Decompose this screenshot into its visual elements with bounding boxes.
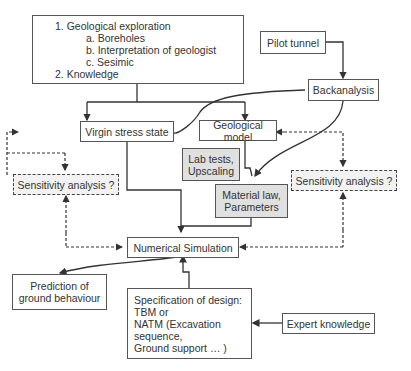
lab-tests-box: Lab tests, Upscaling [182, 148, 240, 181]
virgin-stress-state-label: Virgin stress state [85, 126, 168, 138]
backanalysis-box: Backanalysis [308, 79, 379, 101]
specification-line-1: Specification of design: [134, 294, 251, 306]
exploration-line-1: 1. Geological exploration [55, 20, 243, 32]
sensitivity-analysis-left-label: Sensitivity analysis ? [18, 179, 115, 191]
expert-knowledge-label: Expert knowledge [287, 318, 370, 330]
specification-line-5: Ground support … ) [134, 342, 251, 354]
numerical-simulation-label: Numerical Simulation [133, 242, 232, 254]
backanalysis-label: Backanalysis [313, 84, 374, 96]
exploration-line-c: c. Sesimic [55, 56, 243, 68]
geological-model-label: Geological model [200, 119, 276, 143]
exploration-line-2: 2. Knowledge [55, 68, 243, 80]
sensitivity-analysis-right-label: Sensitivity analysis ? [296, 175, 393, 187]
pilot-tunnel-box: Pilot tunnel [260, 31, 326, 54]
sensitivity-analysis-right-box: Sensitivity analysis ? [291, 170, 397, 191]
lab-tests-line-1: Lab tests, [188, 153, 234, 165]
geological-model-box: Geological model [199, 120, 277, 141]
specification-line-3: NATM (Excavation [134, 318, 251, 330]
pilot-tunnel-label: Pilot tunnel [267, 37, 319, 49]
specification-box: Specification of design: TBM or NATM (Ex… [127, 288, 252, 359]
specification-line-4: sequence, [134, 330, 251, 342]
numerical-simulation-box: Numerical Simulation [127, 237, 239, 258]
lab-tests-line-2: Upscaling [188, 165, 234, 177]
exploration-line-b: b. Interpretation of geologist [55, 44, 243, 56]
sensitivity-analysis-left-box: Sensitivity analysis ? [13, 174, 119, 195]
virgin-stress-state-box: Virgin stress state [80, 121, 174, 142]
geological-exploration-box: 1. Geological exploration a. Boreholes b… [32, 15, 244, 84]
material-law-line-1: Material law, [222, 189, 280, 201]
prediction-line-1: Prediction of [30, 280, 88, 292]
exploration-line-a: a. Boreholes [55, 32, 243, 44]
prediction-line-2: ground behaviour [19, 292, 101, 304]
material-law-box: Material law, Parameters [215, 184, 288, 218]
expert-knowledge-box: Expert knowledge [282, 313, 375, 334]
specification-line-2: TBM or [134, 306, 251, 318]
prediction-box: Prediction of ground behaviour [12, 274, 107, 310]
material-law-line-2: Parameters [224, 201, 278, 213]
